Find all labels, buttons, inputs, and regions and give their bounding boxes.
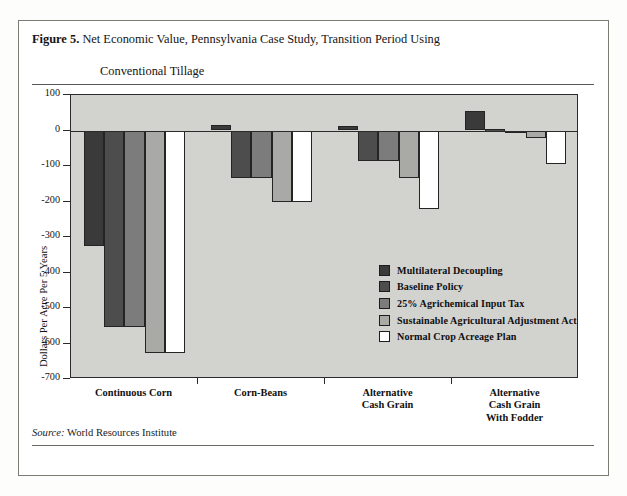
bar (165, 131, 185, 354)
y-axis-tick-label: -100 (20, 158, 60, 169)
chart-legend: Multilateral DecouplingBaseline Policy25… (379, 262, 577, 345)
y-axis-tick-label: -700 (20, 371, 60, 382)
legend-item-label: 25% Agrichemical Input Tax (397, 298, 524, 309)
y-axis-tick-label: -400 (20, 265, 60, 276)
y-axis-tick-label: -600 (20, 336, 60, 347)
figure-frame: Figure 5. Net Economic Value, Pennsylvan… (18, 20, 609, 476)
plot-area: Multilateral DecouplingBaseline Policy25… (70, 94, 578, 378)
y-axis-tick (63, 307, 70, 308)
bar (251, 131, 271, 179)
legend-item-label: Normal Crop Acreage Plan (397, 331, 517, 342)
x-axis-tick (324, 378, 325, 384)
legend-item[interactable]: 25% Agrichemical Input Tax (379, 295, 577, 312)
bar (526, 131, 546, 139)
x-axis-category-line: Cash Grain (445, 399, 585, 411)
x-axis-category-line: Corn-Beans (191, 387, 331, 399)
y-axis-tick (63, 130, 70, 131)
zero-baseline (71, 131, 577, 132)
legend-item-label: Sustainable Agricultural Adjustment Act (397, 315, 577, 326)
legend-item[interactable]: Sustainable Agricultural Adjustment Act (379, 312, 577, 329)
legend-swatch-icon (379, 265, 390, 276)
legend-swatch-icon (379, 298, 390, 309)
x-axis-category-label: Continuous Corn (64, 387, 204, 399)
y-axis-tick (63, 201, 70, 202)
source-note: Source: World Resources Institute (32, 427, 177, 438)
bar (272, 131, 292, 202)
bar (358, 131, 378, 161)
y-axis-tick (63, 165, 70, 166)
y-axis-tick-label: 0 (20, 123, 60, 134)
bar (292, 131, 312, 202)
bar (84, 131, 104, 246)
legend-item[interactable]: Baseline Policy (379, 279, 577, 296)
y-axis-tick-label: -300 (20, 229, 60, 240)
y-axis-tick (63, 236, 70, 237)
bar (124, 131, 144, 327)
x-axis-category-line: With Fodder (445, 412, 585, 424)
bar (546, 131, 566, 165)
source-label: Source: (32, 427, 65, 438)
bar (419, 131, 439, 209)
x-axis-category-label: AlternativeCash GrainWith Fodder (445, 387, 585, 424)
bar (378, 131, 398, 161)
legend-item-label: Baseline Policy (397, 281, 463, 292)
x-axis-category-label: AlternativeCash Grain (318, 387, 458, 412)
legend-item-label: Multilateral Decoupling (397, 265, 503, 276)
x-axis-category-line: Continuous Corn (64, 387, 204, 399)
y-axis-tick (63, 378, 70, 379)
bar (465, 111, 485, 131)
bar (399, 131, 419, 178)
x-axis-category-label: Corn-Beans (191, 387, 331, 399)
y-axis-tick (63, 343, 70, 344)
y-axis-tick (63, 94, 70, 95)
y-axis-tick-label: -500 (20, 300, 60, 311)
legend-item[interactable]: Multilateral Decoupling (379, 262, 577, 279)
x-axis-tick (451, 378, 452, 384)
x-axis-category-line: Alternative (318, 387, 458, 399)
legend-swatch-icon (379, 281, 390, 292)
bar (104, 131, 124, 327)
y-axis-tick-label: 100 (20, 87, 60, 98)
y-axis-tick (63, 272, 70, 273)
x-axis-category-line: Cash Grain (318, 399, 458, 411)
chart: Dollars Per Acre Per 5 Years Multilatera… (19, 21, 610, 477)
legend-swatch-icon (379, 331, 390, 342)
legend-swatch-icon (379, 315, 390, 326)
y-axis-title-holder: Dollars Per Acre Per 5 Years (27, 111, 43, 311)
y-axis-tick-label: -200 (20, 194, 60, 205)
x-axis-category-line: Alternative (445, 387, 585, 399)
source-divider (32, 445, 594, 446)
source-text: World Resources Institute (65, 427, 177, 438)
bar (145, 131, 165, 354)
x-axis-tick (197, 378, 198, 384)
legend-item[interactable]: Normal Crop Acreage Plan (379, 328, 577, 345)
figure-page: Figure 5. Net Economic Value, Pennsylvan… (0, 0, 627, 496)
bar (231, 131, 251, 179)
